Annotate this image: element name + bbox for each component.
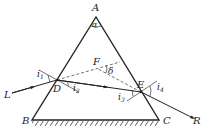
point-d-dot <box>56 79 58 81</box>
label-deviation: δ <box>108 66 113 76</box>
label-point-f: F <box>92 56 101 67</box>
label-point-d: D <box>52 83 61 94</box>
label-base-right: C <box>163 115 171 126</box>
label-i2: i2 <box>73 83 80 94</box>
point-e-dot <box>140 91 142 93</box>
prism-diagram: A α B C D E F δ L R i1 i2 i3 i4 <box>0 0 207 138</box>
label-i4: i4 <box>157 82 164 93</box>
label-apex: A <box>91 2 99 13</box>
label-incoming-ray: L <box>3 89 11 100</box>
label-apex-angle: α <box>92 20 98 29</box>
i4-angle-arc <box>150 86 151 96</box>
prism-triangle <box>32 17 159 120</box>
internal-ray-arrow <box>57 80 106 87</box>
i3-angle-arc <box>133 90 134 96</box>
label-base-left: B <box>21 115 29 126</box>
label-point-e: E <box>136 79 145 90</box>
incoming-ray-arrow <box>12 87 33 93</box>
deviation-angle-arc <box>106 65 107 73</box>
ground-hatching <box>32 121 159 126</box>
label-outgoing-ray: R <box>192 115 201 126</box>
label-i3: i3 <box>118 92 125 103</box>
